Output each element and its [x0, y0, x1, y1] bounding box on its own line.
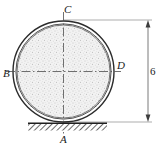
mechanics-figure: C B D A 6 [0, 0, 159, 150]
figure-drawing [0, 0, 159, 150]
ground-support [28, 123, 107, 130]
dimension-arrow-top [146, 20, 151, 28]
point-label-c: C [64, 4, 71, 15]
ground-hatching [28, 124, 107, 131]
point-label-a: A [60, 134, 67, 145]
dimension-arrow-bottom [146, 115, 151, 123]
point-label-d: D [117, 60, 125, 71]
point-label-b: B [3, 68, 10, 79]
dimension-value-label: 6 [150, 66, 156, 77]
